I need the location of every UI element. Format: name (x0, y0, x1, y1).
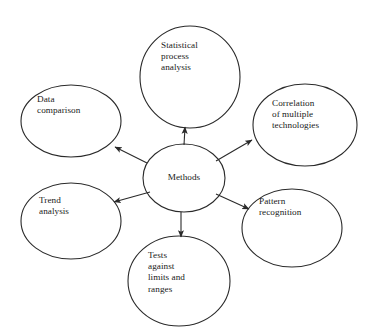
node-label-trend-analysis: Trend analysis (39, 195, 69, 217)
node-label-statistical-process-analysis: Statistical process analysis (161, 40, 198, 74)
methods-diagram: Statistical process analysisCorrelation … (0, 0, 370, 335)
node-label-tests-against-limits-and-ranges: Tests against limits and ranges (148, 250, 185, 295)
arrow-methods-to-statistical-process-analysis[interactable] (184, 127, 185, 145)
node-label-data-comparison: Data comparison (37, 94, 80, 116)
arrow-methods-to-correlation-of-multiple-technologies[interactable] (216, 140, 252, 161)
arrow-methods-to-trend-analysis[interactable] (114, 192, 150, 202)
node-label-correlation-of-multiple-technologies: Correlation of multiple technologies (272, 98, 319, 132)
node-label-methods: Methods (143, 172, 225, 183)
node-label-pattern-recognition: Pattern recognition (259, 196, 301, 218)
arrow-methods-to-data-comparison[interactable] (115, 147, 147, 163)
node-trend-analysis[interactable] (21, 183, 121, 259)
arrow-methods-to-pattern-recognition[interactable] (216, 194, 249, 209)
